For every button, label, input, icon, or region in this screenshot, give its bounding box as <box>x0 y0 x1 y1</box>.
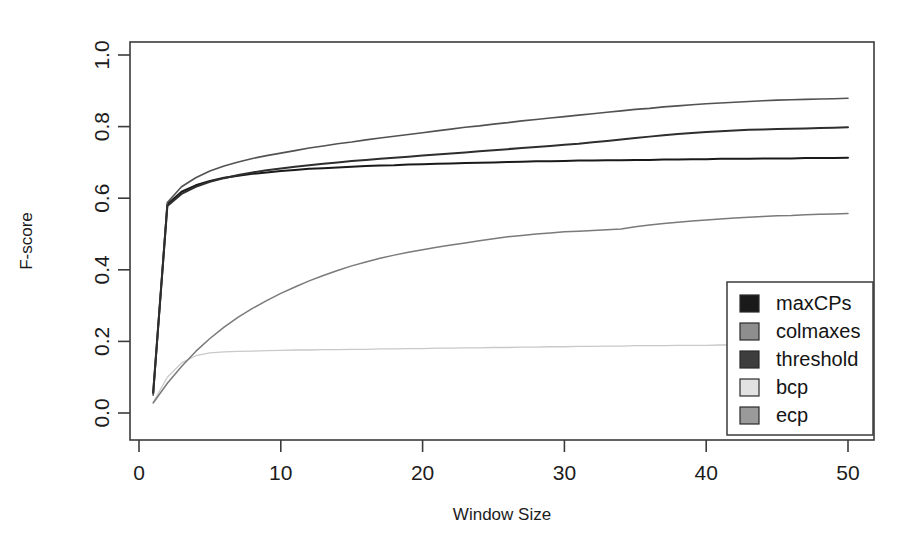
legend-swatch-maxcps[interactable] <box>740 295 759 312</box>
y-tick-label: 1.0 <box>90 40 113 69</box>
x-tick-label: 50 <box>836 461 859 484</box>
y-tick-label: 0.8 <box>90 112 113 141</box>
legend-label-colmaxes[interactable]: colmaxes <box>776 320 860 342</box>
legend-label-ecp[interactable]: ecp <box>776 404 808 426</box>
legend-label-bcp[interactable]: bcp <box>776 376 808 398</box>
x-tick-label: 0 <box>133 461 145 484</box>
y-axis: 0.00.20.40.60.81.0 <box>90 40 130 427</box>
chart-canvas: 0.00.20.40.60.81.0 01020304050 maxCPscol… <box>0 0 898 558</box>
legend-swatch-colmaxes[interactable] <box>740 323 759 340</box>
legend-label-maxcps[interactable]: maxCPs <box>776 292 852 314</box>
y-axis-title: F-score <box>17 212 36 270</box>
x-tick-label: 20 <box>411 461 434 484</box>
y-tick-label: 0.0 <box>90 398 113 427</box>
x-tick-label: 40 <box>695 461 718 484</box>
x-axis: 01020304050 <box>133 440 860 484</box>
x-tick-label: 10 <box>269 461 292 484</box>
y-tick-label: 0.6 <box>90 184 113 213</box>
f-score-vs-window-size-chart: 0.00.20.40.60.81.0 01020304050 maxCPscol… <box>0 0 898 558</box>
x-axis-title: Window Size <box>453 505 551 524</box>
legend-swatch-ecp[interactable] <box>740 407 759 424</box>
x-tick-label: 30 <box>553 461 576 484</box>
y-tick-label: 0.4 <box>90 255 113 285</box>
legend-swatch-threshold[interactable] <box>740 351 759 368</box>
legend-label-threshold[interactable]: threshold <box>776 348 858 370</box>
legend-swatch-bcp[interactable] <box>740 379 759 396</box>
y-tick-label: 0.2 <box>90 327 113 356</box>
chart-legend[interactable]: maxCPscolmaxesthresholdbcpecp <box>727 282 873 435</box>
